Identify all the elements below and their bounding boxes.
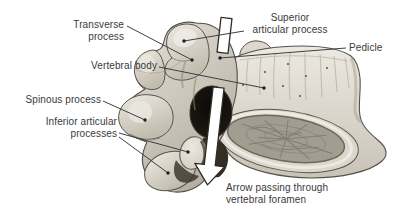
label-superior-articular-line1: Superior bbox=[246, 12, 334, 24]
label-inferior-articular-line1: Inferior articular bbox=[46, 116, 117, 128]
label-transverse-process-line2: process bbox=[73, 31, 124, 43]
spinous-process-highlight bbox=[128, 101, 152, 123]
leader-dot bbox=[190, 58, 193, 61]
label-superior-articular-process: Superior articular process bbox=[246, 12, 334, 36]
vertebral-body-shape bbox=[213, 41, 386, 182]
leader-dot bbox=[166, 171, 169, 174]
leader-dot bbox=[218, 56, 221, 59]
leader-dot bbox=[143, 118, 146, 121]
vertebra-illustration bbox=[0, 0, 408, 215]
label-inferior-articular-line2: processes bbox=[46, 128, 117, 140]
label-pedicle: Pedicle bbox=[349, 42, 383, 54]
label-arrow-caption-line1: Arrow passing through bbox=[226, 182, 328, 194]
vertebra-diagram: Transverse process Superior articular pr… bbox=[0, 0, 408, 215]
label-vertebral-body: Vertebral body bbox=[91, 60, 157, 72]
label-inferior-articular-processes: Inferior articular processes bbox=[46, 116, 117, 140]
label-arrow-caption: Arrow passing through vertebral foramen bbox=[226, 182, 328, 206]
leader-dot bbox=[186, 150, 189, 153]
label-transverse-process: Transverse process bbox=[73, 19, 124, 43]
leader-dot bbox=[262, 86, 265, 89]
label-spinous-process: Spinous process bbox=[26, 94, 101, 106]
label-superior-articular-line2: articular process bbox=[246, 24, 334, 36]
leader-dot bbox=[182, 39, 185, 42]
label-arrow-caption-line2: vertebral foramen bbox=[226, 194, 328, 206]
label-transverse-process-line1: Transverse bbox=[73, 19, 124, 31]
